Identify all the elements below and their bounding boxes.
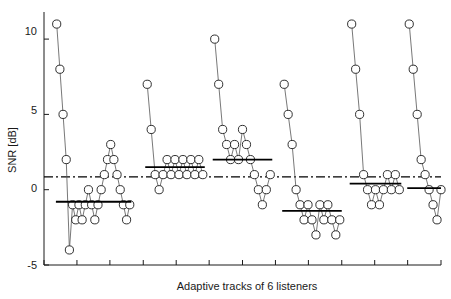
data-point-marker: [292, 186, 300, 194]
data-point-marker: [262, 186, 270, 194]
data-point-marker: [405, 20, 413, 28]
data-point-marker: [391, 171, 399, 179]
y-tick-label-5: 5: [31, 104, 37, 116]
data-point-marker: [324, 201, 332, 209]
data-point-marker: [219, 125, 227, 133]
y-tick-label-0: 0: [31, 182, 37, 194]
data-point-marker: [356, 110, 364, 118]
y-tick-label-10: 10: [25, 25, 37, 37]
data-point-marker: [375, 201, 383, 209]
data-point-marker: [151, 171, 159, 179]
data-point-marker: [409, 65, 417, 73]
data-point-marker: [65, 246, 73, 254]
data-point-marker: [371, 186, 379, 194]
data-point-marker: [116, 186, 124, 194]
data-point-marker: [53, 20, 61, 28]
data-point-marker: [238, 125, 246, 133]
data-point-marker: [328, 216, 336, 224]
data-point-marker: [110, 155, 118, 163]
data-point-marker: [195, 155, 203, 163]
data-point-marker: [155, 186, 163, 194]
data-point-marker: [147, 125, 155, 133]
data-point-marker: [179, 155, 187, 163]
data-point-marker: [97, 186, 105, 194]
data-point-marker: [425, 186, 433, 194]
data-point-marker: [316, 201, 324, 209]
data-point-marker: [336, 216, 344, 224]
data-point-marker: [296, 201, 304, 209]
data-point-marker: [167, 171, 175, 179]
data-point-marker: [163, 155, 171, 163]
data-point-marker: [429, 201, 437, 209]
y-tick-label-minus5: -5: [27, 259, 37, 271]
data-point-marker: [250, 171, 258, 179]
data-point-marker: [187, 155, 195, 163]
data-point-marker: [191, 171, 199, 179]
adaptive-tracks-scatter-line-chart: SNR [dB] 10 5 0 -5 Adaptive tracks of 6 …: [0, 0, 451, 299]
data-point-marker: [223, 140, 231, 148]
data-point-marker: [280, 80, 288, 88]
data-point-marker: [395, 186, 403, 194]
data-point-marker: [320, 216, 328, 224]
data-point-marker: [332, 231, 340, 239]
data-point-marker: [113, 171, 121, 179]
y-axis-title: SNR [dB]: [6, 127, 18, 173]
data-point-marker: [100, 171, 108, 179]
data-point-marker: [84, 186, 92, 194]
data-point-marker: [433, 216, 441, 224]
data-point-marker: [352, 65, 360, 73]
data-point-marker: [143, 80, 151, 88]
data-point-marker: [254, 186, 262, 194]
data-point-marker: [242, 140, 250, 148]
data-point-marker: [288, 140, 296, 148]
data-point-marker: [312, 231, 320, 239]
data-point-marker: [215, 80, 223, 88]
x-axis-title: Adaptive tracks of 6 listeners: [177, 280, 318, 292]
data-point-marker: [258, 201, 266, 209]
data-point-marker: [171, 155, 179, 163]
data-point-marker: [348, 20, 356, 28]
data-point-marker: [183, 171, 191, 179]
data-point-marker: [363, 186, 371, 194]
data-point-marker: [284, 110, 292, 118]
data-point-marker: [122, 216, 130, 224]
data-point-marker: [107, 140, 115, 148]
data-point-marker: [62, 155, 70, 163]
data-point-marker: [175, 171, 183, 179]
data-point-marker: [230, 140, 238, 148]
data-point-marker: [413, 110, 421, 118]
data-point-marker: [437, 186, 445, 194]
data-point-marker: [421, 171, 429, 179]
data-point-marker: [56, 65, 64, 73]
data-point-marker: [159, 171, 167, 179]
data-point-marker: [59, 110, 67, 118]
data-point-marker: [383, 171, 391, 179]
data-point-marker: [308, 216, 316, 224]
data-point-marker: [266, 171, 274, 179]
data-point-marker: [199, 171, 207, 179]
data-point-marker: [387, 186, 395, 194]
data-point-marker: [359, 171, 367, 179]
data-point-marker: [211, 35, 219, 43]
data-point-marker: [91, 216, 99, 224]
data-point-marker: [300, 216, 308, 224]
data-point-marker: [417, 155, 425, 163]
data-point-marker: [78, 216, 86, 224]
data-point-marker: [304, 201, 312, 209]
chart-background: [0, 0, 451, 299]
data-point-marker: [367, 201, 375, 209]
chart-figure: SNR [dB] 10 5 0 -5 Adaptive tracks of 6 …: [0, 0, 451, 299]
data-point-marker: [379, 186, 387, 194]
